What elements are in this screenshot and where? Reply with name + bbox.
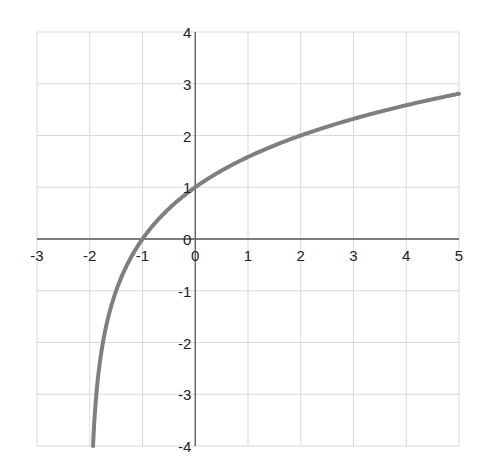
y-tick-label: 4 [183, 24, 191, 41]
y-tick-label: 1 [183, 179, 191, 196]
y-tick-label: -4 [178, 438, 191, 455]
x-tick-label: -3 [30, 247, 43, 264]
x-tick-label: 2 [297, 247, 305, 264]
y-tick-label: 3 [183, 76, 191, 93]
x-tick-label: 1 [244, 247, 252, 264]
x-tick-label: -1 [136, 247, 149, 264]
x-tick-labels: -3-2-1012345 [30, 247, 463, 264]
curve-series [93, 94, 459, 446]
y-tick-label: -3 [178, 386, 191, 403]
x-tick-label: -2 [83, 247, 96, 264]
y-tick-label: 2 [183, 128, 191, 145]
function-chart: -3-2-1012345 43210-1-2-3-4 [0, 0, 487, 476]
curve-line [93, 94, 459, 446]
y-tick-label: -2 [178, 335, 191, 352]
x-tick-label: 3 [349, 247, 357, 264]
x-tick-label: 5 [455, 247, 463, 264]
x-tick-label: 4 [402, 247, 410, 264]
y-tick-label: 0 [183, 231, 191, 248]
y-tick-label: -1 [178, 283, 191, 300]
x-tick-label: 0 [191, 247, 199, 264]
